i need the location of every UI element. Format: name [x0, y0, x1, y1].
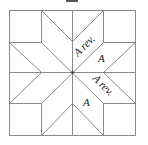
caption-fragment [66, 0, 78, 2]
label-a-rev-upper: A rev. [70, 32, 97, 59]
label-a-upper: A [97, 52, 105, 64]
center-point [71, 71, 73, 73]
star-block-diagram: A rev. A A rev. A [0, 0, 148, 145]
corner-square-br [104, 104, 136, 136]
corner-square-bl [10, 104, 42, 136]
label-a-lower: A [82, 96, 90, 108]
corner-square-tl [10, 11, 42, 43]
corner-square-tr [104, 11, 136, 43]
